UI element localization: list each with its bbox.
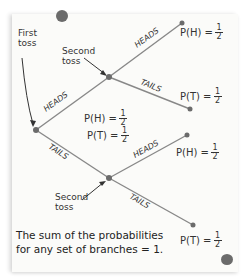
label-second-toss-top: Second toss: [62, 46, 94, 66]
node-th: [185, 133, 190, 138]
node-tails: [106, 175, 112, 181]
label-first-toss: First toss: [18, 28, 48, 48]
branch-top-heads: [109, 23, 182, 77]
label-bottom-heads: HEADS: [132, 138, 161, 159]
prob-bottom-heads: P(H) = 12: [176, 144, 219, 161]
node-root: [33, 127, 39, 133]
node-ht: [188, 107, 193, 112]
label-first-heads: HEADS: [42, 90, 70, 114]
label-second-toss-bottom: Second toss: [55, 192, 87, 212]
footer-line-1: The sum of the probabilities: [16, 228, 163, 242]
prob-top-heads: P(H) = 12: [180, 24, 223, 41]
prob-first-heads: P(H) = 12: [84, 110, 127, 127]
node-tt: [191, 223, 196, 228]
footer-line-2: for any set of branches = 1.: [16, 242, 163, 256]
label-top-tails: TAILS: [139, 78, 162, 94]
prob-top-tails: P(T) = 12: [180, 88, 222, 105]
prob-bottom-tails: P(T) = 12: [180, 232, 222, 249]
label-top-heads: HEADS: [133, 26, 161, 50]
arrow-first-toss: [22, 58, 33, 124]
prob-first-tails: P(T) = 12: [87, 127, 129, 144]
node-heads: [106, 74, 112, 80]
footer-note: The sum of the probabilities for any set…: [16, 228, 163, 256]
